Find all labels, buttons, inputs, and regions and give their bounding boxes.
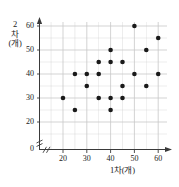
x-tick-label: 20 bbox=[55, 155, 71, 163]
x-tick-label: 50 bbox=[126, 155, 142, 163]
data-point bbox=[96, 96, 101, 101]
data-point bbox=[96, 60, 101, 65]
data-point bbox=[132, 72, 137, 77]
x-tick-label: 30 bbox=[79, 155, 95, 163]
data-point bbox=[120, 84, 125, 89]
x-tick-label: 60 bbox=[150, 155, 166, 163]
data-point bbox=[120, 96, 125, 101]
data-point bbox=[132, 24, 137, 29]
origin-label: 0 bbox=[20, 145, 34, 153]
y-tick-label: 50 bbox=[20, 46, 34, 54]
data-point bbox=[144, 84, 149, 89]
data-point bbox=[108, 96, 113, 101]
axis-lines bbox=[37, 17, 172, 152]
axis-break-marks bbox=[37, 140, 51, 153]
horizontal-gridlines bbox=[40, 26, 167, 134]
data-point bbox=[73, 108, 78, 113]
y-axis-arrow-icon bbox=[37, 17, 42, 24]
y-tick-label: 30 bbox=[20, 94, 34, 102]
y-tick-label: 60 bbox=[20, 22, 34, 30]
data-point bbox=[120, 60, 125, 65]
scatter-plot-figure: 2 차 (개) 1차(개) 203040506020304050600 bbox=[0, 0, 179, 187]
data-point bbox=[144, 48, 149, 53]
x-axis-arrow-icon bbox=[165, 147, 172, 152]
data-point bbox=[73, 72, 78, 77]
data-point bbox=[156, 72, 161, 77]
y-tick-label: 20 bbox=[20, 118, 34, 126]
data-point bbox=[108, 48, 113, 53]
data-point bbox=[96, 72, 101, 77]
data-point bbox=[156, 36, 161, 41]
data-point bbox=[108, 60, 113, 65]
data-point bbox=[61, 96, 66, 101]
x-axis-title: 1차(개) bbox=[110, 166, 135, 176]
y-tick-label: 40 bbox=[20, 70, 34, 78]
data-point bbox=[108, 108, 113, 113]
data-point bbox=[85, 72, 90, 77]
data-point bbox=[85, 84, 90, 89]
x-tick-label: 40 bbox=[103, 155, 119, 163]
